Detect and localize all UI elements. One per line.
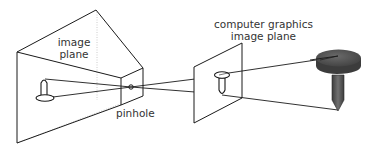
- image-plane-label-line1: image: [54, 36, 94, 48]
- projection-rays-back: [45, 79, 131, 97]
- cg-image-plane-label-line2: image plane: [214, 30, 313, 42]
- camera-box: [17, 10, 143, 143]
- projection-rays-front: [131, 79, 195, 92]
- cg-image-plane: [194, 43, 242, 123]
- image-plane-label: image plane: [54, 36, 94, 60]
- nail-object: [316, 50, 361, 112]
- pinhole-camera-diagram: [0, 0, 380, 150]
- cg-image-plane-label: computer graphics image plane: [214, 18, 313, 42]
- image-plane-label-line2: plane: [54, 48, 94, 60]
- cg-image-plane-label-line1: computer graphics: [214, 18, 313, 30]
- inverted-nail-image: [36, 80, 54, 101]
- pinhole-label: pinhole: [116, 107, 155, 119]
